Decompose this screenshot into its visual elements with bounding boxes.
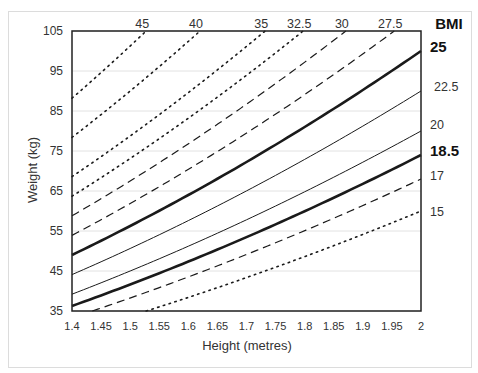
legend-title: BMI	[435, 15, 463, 32]
x-tick-label: 1.8	[297, 320, 312, 332]
x-tick-label: 1.6	[181, 320, 196, 332]
x-tick-label: 1.85	[323, 320, 344, 332]
bmi-labels: 45403532.53027.52522.52018.51715	[135, 17, 459, 219]
x-tick-label: 1.45	[90, 320, 111, 332]
y-axis-title: Weight (kg)	[25, 137, 40, 203]
bmi-label-30: 30	[335, 17, 349, 31]
bmi-label-22.5: 22.5	[434, 80, 458, 94]
y-axis-ticks: 35455565758595105	[43, 24, 63, 318]
bmi-curve-18.5	[72, 155, 421, 306]
bmi-label-27.5: 27.5	[378, 17, 402, 31]
bmi-label-32.5: 32.5	[287, 17, 311, 31]
x-tick-label: 1.55	[149, 320, 170, 332]
y-tick-label: 75	[50, 144, 64, 158]
y-tick-label: 45	[50, 264, 64, 278]
bmi-chart: 35455565758595105 1.41.451.51.551.61.651…	[0, 0, 478, 373]
bmi-label-18.5: 18.5	[430, 142, 459, 159]
bmi-curve-40	[72, 31, 200, 137]
bmi-label-40: 40	[189, 17, 203, 31]
x-tick-label: 2	[418, 320, 424, 332]
x-tick-label: 1.5	[123, 320, 138, 332]
y-tick-label: 85	[50, 104, 64, 118]
y-tick-label: 55	[50, 224, 64, 238]
bmi-label-17: 17	[430, 169, 444, 183]
bmi-curve-30	[72, 31, 346, 216]
bmi-curve-32.5	[72, 31, 303, 196]
bmi-label-15: 15	[430, 205, 444, 219]
bmi-curve-22.5	[72, 91, 421, 275]
bmi-label-35: 35	[254, 17, 268, 31]
gridlines	[72, 31, 421, 311]
bmi-curve-35	[72, 31, 265, 177]
bmi-curve-27.5	[72, 31, 394, 235]
x-tick-label: 1.75	[265, 320, 286, 332]
bmi-label-45: 45	[135, 17, 149, 31]
x-tick-label: 1.4	[64, 320, 79, 332]
bmi-label-25: 25	[430, 38, 447, 55]
plot-area	[72, 31, 421, 311]
x-tick-label: 1.9	[355, 320, 370, 332]
x-tick-label: 1.95	[381, 320, 402, 332]
bmi-curve-45	[72, 31, 146, 98]
bmi-curve-17	[92, 179, 421, 311]
x-axis-title: Height (metres)	[202, 338, 292, 353]
bmi-label-20: 20	[430, 118, 444, 132]
y-tick-label: 65	[50, 184, 64, 198]
bmi-curve-25	[72, 51, 421, 255]
bmi-curves	[72, 31, 421, 311]
y-tick-label: 95	[50, 64, 64, 78]
y-tick-label: 35	[50, 304, 64, 318]
bmi-curve-20	[72, 131, 421, 294]
x-axis-ticks: 1.41.451.51.551.61.651.71.751.81.851.91.…	[64, 320, 424, 332]
x-tick-label: 1.65	[207, 320, 228, 332]
y-tick-label: 105	[43, 24, 63, 38]
x-tick-label: 1.7	[239, 320, 254, 332]
